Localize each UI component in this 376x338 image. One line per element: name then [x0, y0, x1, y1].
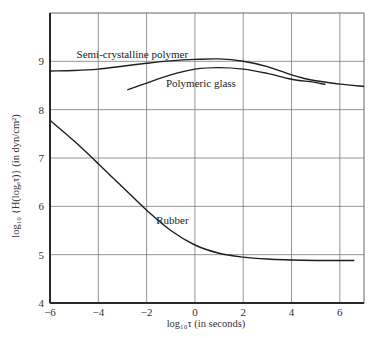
series-labels: Semi-crystalline polymerPolymeric glassR…: [77, 48, 236, 226]
series-polymeric-glass-label: Polymeric glass: [166, 77, 236, 89]
y-tick-label: 9: [39, 55, 45, 67]
y-tick-labels: 456789: [39, 55, 45, 309]
x-axis-label: log₁₀τ (in seconds): [167, 318, 246, 330]
y-tick-label: 4: [39, 297, 45, 309]
x-tick-label: −6: [44, 306, 56, 318]
series-semi-crystalline-polymer-label: Semi-crystalline polymer: [77, 48, 189, 60]
series-rubber-line: [50, 120, 354, 260]
y-tick-label: 7: [39, 152, 45, 164]
x-tick-labels: −6−4−20246: [44, 306, 343, 318]
y-tick-label: 8: [39, 104, 45, 116]
y-tick-label: 5: [39, 249, 45, 261]
y-tick-label: 6: [39, 200, 45, 212]
y-axis-label: log₁₀ {H(logₑτ)} (in dyn/cm²): [10, 114, 22, 238]
data-series: [50, 59, 364, 261]
x-tick-label: −4: [92, 306, 104, 318]
series-rubber-label: Rubber: [156, 214, 189, 226]
x-tick-label: 2: [240, 306, 246, 318]
x-tick-label: 0: [192, 306, 198, 318]
x-tick-label: 4: [289, 306, 295, 318]
x-tick-label: 6: [337, 306, 343, 318]
x-tick-label: −2: [141, 306, 153, 318]
chart: −6−4−20246 456789 Semi-crystalline polym…: [0, 0, 376, 338]
